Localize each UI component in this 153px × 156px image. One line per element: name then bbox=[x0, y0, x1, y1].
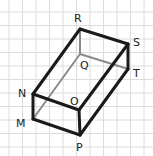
label-Q: Q bbox=[80, 59, 89, 72]
label-N: N bbox=[18, 87, 26, 100]
label-P: P bbox=[76, 141, 83, 154]
label-T: T bbox=[132, 67, 140, 80]
edge-MP bbox=[33, 119, 80, 135]
edge-OP bbox=[79, 110, 80, 135]
diagram-canvas: R S T Q N O M P bbox=[0, 0, 153, 156]
label-O: O bbox=[70, 95, 79, 108]
rectangular-prism-diagram: R S T Q N O M P bbox=[0, 0, 153, 156]
label-M: M bbox=[16, 117, 26, 130]
label-R: R bbox=[74, 12, 82, 25]
label-S: S bbox=[133, 36, 140, 49]
